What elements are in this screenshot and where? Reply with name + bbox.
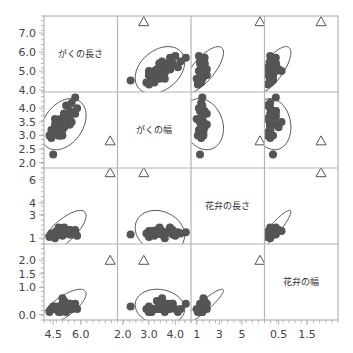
data-point	[71, 110, 79, 118]
data-point	[266, 75, 274, 83]
y-tick-label: 3.5	[19, 116, 37, 129]
outlier-triangle-marker	[316, 168, 326, 177]
data-point	[158, 294, 166, 302]
data-point	[127, 302, 135, 310]
data-point	[177, 58, 185, 66]
data-point	[197, 99, 205, 107]
variable-label: 花弁の幅	[283, 276, 319, 287]
x-tick-label: 5	[238, 328, 245, 341]
cell-2-1	[127, 168, 190, 253]
y-tick-label: 6.0	[19, 46, 37, 59]
outlier-triangle-marker	[255, 136, 265, 145]
y-tick-label: 4	[29, 197, 36, 210]
y-tick-label: 1	[29, 232, 36, 245]
data-point	[49, 150, 57, 158]
data-point	[197, 75, 205, 83]
data-point	[198, 112, 206, 120]
data-point	[197, 305, 205, 313]
outlier-triangle-marker	[139, 17, 149, 26]
variable-label: がくの長さ	[58, 48, 103, 59]
data-point	[266, 99, 274, 107]
outlier-triangle-marker	[316, 17, 326, 26]
data-point	[196, 150, 204, 158]
data-point	[153, 230, 161, 238]
data-point	[163, 61, 171, 69]
cell-0-1	[127, 17, 190, 94]
y-tick-label: 7.0	[19, 27, 37, 40]
data-point	[266, 67, 274, 75]
x-tick-label: 0.5	[270, 328, 288, 341]
y-tick-label: 1.5	[19, 268, 37, 281]
y-tick-label: 2.0	[19, 157, 37, 170]
outlier-triangle-marker	[139, 168, 149, 177]
y-tick-label: 2.0	[19, 254, 37, 267]
matrix-cells: がくの長さがくの幅花弁の長さ花弁の幅	[41, 17, 326, 325]
x-tick-label: 4.5	[44, 328, 62, 341]
data-point	[153, 67, 161, 75]
data-point	[266, 112, 274, 120]
data-point	[177, 305, 185, 313]
cell-3-2	[183, 255, 265, 324]
cell-0-2	[183, 17, 265, 94]
data-point	[153, 305, 161, 313]
data-point	[150, 75, 158, 83]
data-point	[58, 305, 66, 313]
data-point	[58, 123, 66, 131]
x-tick-label: 3	[216, 328, 223, 341]
data-point	[58, 230, 66, 238]
y-tick-label: 6	[29, 174, 36, 187]
variable-label: がくの幅	[136, 124, 172, 135]
matrix-frame	[44, 16, 338, 320]
x-tick-label: 1	[193, 328, 200, 341]
cell-3-3: 花弁の幅	[283, 276, 319, 287]
y-tick-label: 0.0	[19, 309, 37, 322]
x-tick-label: 6.0	[72, 328, 90, 341]
data-point	[269, 150, 277, 158]
data-point	[166, 54, 174, 62]
data-point	[197, 123, 205, 131]
data-point	[266, 123, 274, 131]
data-point	[68, 99, 76, 107]
data-point	[266, 230, 274, 238]
cell-0-0: がくの長さ	[58, 48, 103, 59]
x-tick-label: 3.0	[140, 328, 158, 341]
data-point	[127, 77, 135, 85]
cell-1-0	[41, 93, 115, 158]
outlier-triangle-marker	[105, 136, 115, 145]
outlier-triangle-marker	[105, 168, 115, 177]
y-tick-label: 2.5	[19, 143, 37, 156]
outlier-triangle-marker	[255, 255, 265, 264]
x-tick-label: 1.5	[298, 328, 316, 341]
bottom-axis: 4.56.02.03.04.01350.51.5	[44, 320, 338, 341]
y-tick-label: 3.0	[19, 129, 37, 142]
data-point	[197, 67, 205, 75]
y-tick-label: 4.0	[19, 84, 37, 97]
left-axis: 4.05.06.07.02.02.53.03.54.013460.01.01.5…	[19, 16, 45, 322]
x-tick-label: 4.0	[167, 328, 185, 341]
data-point	[127, 231, 135, 239]
x-tick-label: 2.0	[114, 328, 132, 341]
data-point	[51, 230, 59, 238]
y-tick-label: 3	[29, 209, 36, 222]
data-point	[64, 112, 72, 120]
cell-3-0	[41, 255, 115, 324]
data-point	[51, 305, 59, 313]
data-point	[163, 228, 171, 236]
variable-label: 花弁の長さ	[205, 200, 250, 211]
scatterplot-matrix: がくの長さがくの幅花弁の長さ花弁の幅 4.05.06.07.02.02.53.0…	[0, 0, 353, 353]
y-tick-label: 4.0	[19, 102, 37, 115]
outlier-triangle-marker	[255, 17, 265, 26]
data-point	[163, 305, 171, 313]
data-point	[278, 118, 286, 126]
cell-3-1	[127, 255, 190, 324]
cell-1-2	[183, 93, 265, 158]
cell-2-0	[41, 168, 115, 253]
data-point	[177, 230, 185, 238]
y-tick-label: 5.0	[19, 65, 37, 78]
cell-1-1: がくの幅	[136, 124, 172, 135]
data-point	[51, 126, 59, 134]
outlier-triangle-marker	[316, 136, 326, 145]
cell-2-2: 花弁の長さ	[205, 200, 250, 211]
outlier-triangle-marker	[105, 255, 115, 264]
outlier-triangle-marker	[139, 255, 149, 264]
